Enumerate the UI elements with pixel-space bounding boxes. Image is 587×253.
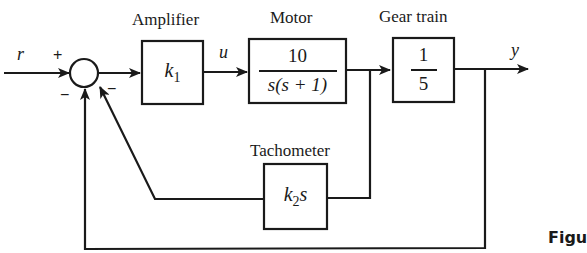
minus-sign-outer: − — [60, 86, 69, 104]
summing-junction — [70, 59, 98, 87]
gear-train-label: Gear train — [379, 7, 447, 27]
gear-denominator: 5 — [419, 74, 429, 95]
tachometer-gain: k2s — [264, 164, 327, 229]
minus-sign-inner: − — [107, 80, 116, 98]
input-signal-label: r — [17, 44, 24, 65]
amplifier-label: Amplifier — [132, 10, 199, 30]
tachometer-gain-s: s — [300, 183, 308, 205]
fraction-bar — [259, 70, 337, 72]
output-signal-label: y — [511, 40, 519, 61]
control-signal-label: u — [219, 42, 228, 63]
gear-numerator: 1 — [419, 45, 429, 66]
tachometer-gain-symbol: k — [284, 183, 293, 205]
tachometer-gain-subscript: 2 — [293, 194, 300, 209]
fraction-bar — [411, 69, 437, 71]
motor-numerator: 10 — [288, 46, 307, 67]
motor-denominator: s(s + 1) — [268, 75, 327, 96]
amplifier-gain: k1 — [142, 41, 203, 104]
tachometer-label: Tachometer — [250, 141, 330, 161]
amplifier-gain-subscript: 1 — [173, 70, 180, 85]
gear-train-transfer-function: 1 5 — [393, 38, 454, 102]
motor-label: Motor — [270, 8, 313, 28]
plus-sign: + — [53, 46, 62, 64]
motor-transfer-function: 10 s(s + 1) — [249, 39, 346, 103]
figure-caption-fragment: Figu — [548, 228, 587, 247]
